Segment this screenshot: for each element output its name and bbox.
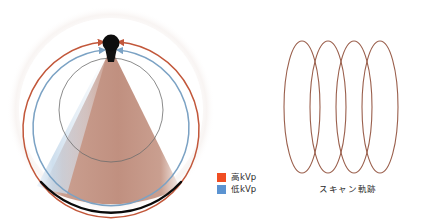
legend: 高kVp 低kVp <box>217 173 256 194</box>
scan-trajectory-panel <box>284 41 398 173</box>
gantry-panel <box>7 6 215 218</box>
square-swatch-icon <box>217 173 226 182</box>
legend-item-low-kvp: 低kVp <box>217 185 256 194</box>
trajectory-loop <box>362 41 398 173</box>
scan-trajectory-caption: スキャン軌跡 <box>300 182 396 194</box>
square-swatch-icon <box>217 185 226 194</box>
legend-label-low-kvp: 低kVp <box>231 185 256 194</box>
legend-label-high-kvp: 高kVp <box>231 173 256 182</box>
legend-item-high-kvp: 高kVp <box>217 173 256 182</box>
